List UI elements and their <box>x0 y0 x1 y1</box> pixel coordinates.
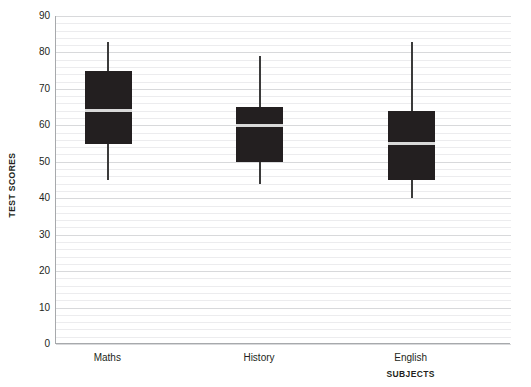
y-axis-tick-label: 20 <box>24 266 50 276</box>
upper-whisker <box>411 42 413 111</box>
median-line <box>85 109 132 112</box>
y-axis-title: TEST SCORES <box>7 0 17 120</box>
x-axis-tick-label: English <box>361 352 461 363</box>
x-axis-tick-label: History <box>209 352 309 363</box>
box-plot-item[interactable] <box>236 16 283 344</box>
median-line <box>236 124 283 127</box>
interquartile-box <box>236 107 283 162</box>
lower-whisker <box>107 144 109 180</box>
y-axis-tick-label: 10 <box>24 303 50 313</box>
y-axis-title-label: TEST SCORES <box>7 120 17 250</box>
box-plot-item[interactable] <box>85 16 132 344</box>
upper-whisker <box>259 56 261 107</box>
median-line <box>388 142 435 145</box>
y-axis-tick-label: 60 <box>24 120 50 130</box>
x-axis-tick-label: Maths <box>57 352 157 363</box>
y-axis-tick-labels: 9080706050403020100 <box>22 0 50 387</box>
upper-whisker <box>107 42 109 71</box>
interquartile-box <box>85 71 132 144</box>
y-axis-tick-label: 30 <box>24 230 50 240</box>
y-axis-tick-label: 90 <box>24 11 50 21</box>
box-plot-item[interactable] <box>388 16 435 344</box>
plot-area <box>55 16 510 344</box>
y-axis-tick-label: 40 <box>24 193 50 203</box>
y-axis-tick-label: 80 <box>24 47 50 57</box>
y-axis-tick-label: 0 <box>24 339 50 349</box>
lower-whisker <box>411 180 413 198</box>
gridline-major <box>56 344 511 345</box>
box-plot-chart: TEST SCORES 9080706050403020100 MathsHis… <box>0 0 531 387</box>
y-axis-tick-label: 70 <box>24 84 50 94</box>
interquartile-box <box>388 111 435 180</box>
lower-whisker <box>259 162 261 184</box>
y-axis-tick-label: 50 <box>24 157 50 167</box>
x-axis-title: SUBJECTS <box>361 369 461 379</box>
